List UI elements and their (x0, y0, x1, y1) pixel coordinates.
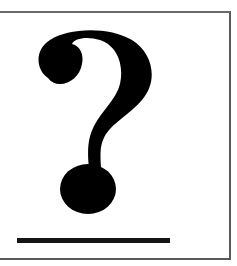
underline-bar (17, 238, 170, 243)
question-mark-icon: ? (28, 30, 158, 215)
